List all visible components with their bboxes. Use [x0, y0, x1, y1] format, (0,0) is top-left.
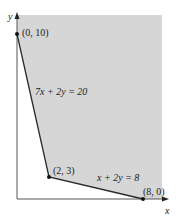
- equation-label-x-2y-8: x + 2y = 8: [97, 173, 139, 183]
- point-label-0-10: (0, 10): [22, 28, 49, 38]
- vertex-8-0: [141, 197, 145, 201]
- point-label-2-3: (2, 3): [53, 166, 75, 176]
- x-axis-arrow-icon: [162, 197, 169, 202]
- point-label-8-0: (8, 0): [143, 187, 165, 197]
- feasible-region: [17, 15, 162, 199]
- vertex-0-10: [15, 32, 19, 36]
- equation-label-7x-2y-20: 7x + 2y = 20: [35, 87, 87, 97]
- x-axis-label: x: [165, 206, 169, 216]
- y-axis-label: y: [8, 12, 12, 22]
- vertex-2-3: [47, 175, 51, 179]
